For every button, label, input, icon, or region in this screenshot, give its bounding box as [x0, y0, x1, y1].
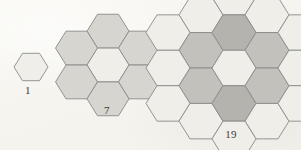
hex-cluster-1-canvas — [11, 50, 51, 84]
hex-grid — [56, 14, 161, 115]
hex-cluster-7-canvas — [70, 26, 146, 104]
hexagon-cell — [14, 53, 48, 80]
hex-cluster-1 — [11, 50, 51, 84]
hex-cluster-19-canvas — [178, 8, 290, 128]
hexagon-number-figure: 1 7 19 — [0, 0, 301, 150]
hex-cluster-7-label: 7 — [90, 104, 124, 116]
hex-cluster-19-label: 19 — [213, 128, 249, 140]
hex-cluster-19 — [178, 8, 290, 128]
hex-grid — [14, 53, 48, 80]
hex-cluster-1-label: 1 — [11, 84, 45, 96]
hex-cluster-7 — [70, 26, 146, 104]
